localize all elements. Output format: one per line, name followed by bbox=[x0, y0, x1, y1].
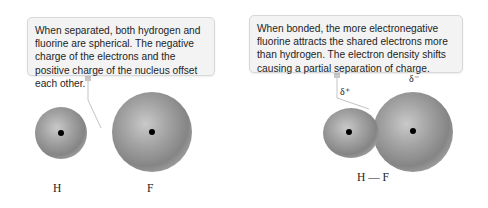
right-callout-box: When bonded, the more electronegative fl… bbox=[249, 15, 463, 73]
hydrogen-label: H bbox=[53, 182, 61, 194]
partial-negative-label: δ⁻ bbox=[409, 73, 419, 84]
fluorine-atom-sphere bbox=[112, 92, 192, 172]
partial-positive-label: δ⁺ bbox=[340, 86, 350, 97]
hf-fluorine-nucleus-dot bbox=[410, 128, 416, 134]
hf-hydrogen-nucleus-dot bbox=[346, 129, 352, 135]
fluorine-label: F bbox=[147, 182, 153, 194]
hydrogen-nucleus-dot bbox=[58, 130, 64, 136]
hf-molecule bbox=[323, 92, 453, 172]
left-callout-box: When separated, both hydrogen and fluori… bbox=[27, 17, 215, 76]
left-callout-connector bbox=[85, 76, 101, 128]
molecule-label: H — F bbox=[357, 171, 389, 183]
hydrogen-atom-sphere bbox=[35, 107, 87, 159]
fluorine-nucleus-dot bbox=[149, 129, 155, 135]
